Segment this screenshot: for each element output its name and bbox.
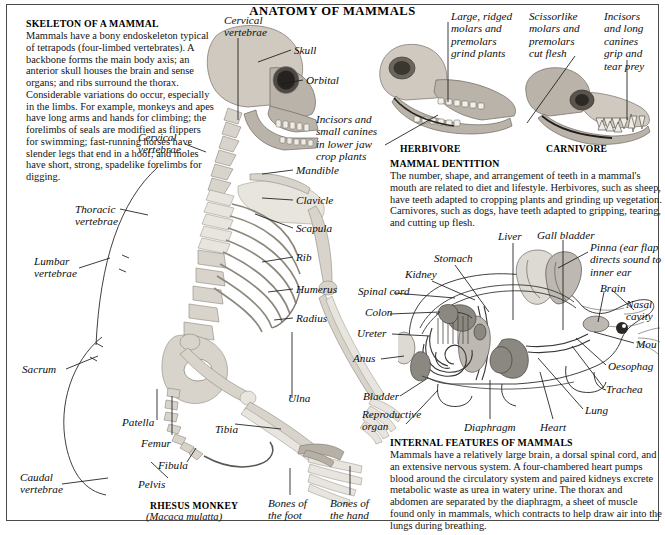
herbivore-caption: HERBIVORE — [400, 143, 461, 154]
internal-panel-body: Mammals have a relatively large brain, a… — [390, 449, 662, 531]
internal-panel-text: INTERNAL FEATURES OF MAMMALS Mammals hav… — [390, 437, 662, 531]
label-kidney: Kidney — [405, 268, 437, 280]
label-caudal-vertebrae: Caudal vertebrae — [20, 471, 63, 496]
vertebral-column-brace — [92, 165, 162, 350]
label-bladder: Bladder — [363, 390, 399, 402]
label-nasal-cavity: Nasal cavity — [626, 298, 653, 323]
dentition-panel-heading: MAMMAL DENTITION — [390, 158, 662, 169]
carnivore-caption: CARNIVORE — [546, 143, 607, 154]
label-gall-bladder: Gall bladder — [537, 229, 595, 241]
label-humerus: Humerus — [296, 283, 337, 295]
label-lung: Lung — [585, 404, 608, 416]
label-bones-of-the-foot: Bones of the foot — [268, 497, 307, 522]
label-radius: Radius — [296, 312, 327, 324]
label-mandible: Mandible — [296, 164, 339, 176]
label-tibia: Tibia — [215, 423, 238, 435]
label-orbital: Orbital — [306, 74, 339, 86]
label-cervical-vertebrae-mid: Cervical vertebrae — [138, 131, 181, 156]
label-fibula: Fibula — [158, 459, 188, 471]
label-reproductive-organ: Reproductive organ — [362, 408, 421, 433]
label-colon: Colon — [365, 306, 392, 318]
label-carnivore-incisors: Incisors and long canines grip and tear … — [604, 10, 644, 72]
specimen-common-name: RHESUS MONKEY — [150, 500, 238, 511]
label-ulna: Ulna — [288, 392, 310, 404]
label-bones-of-the-hand: Bones of the hand — [330, 497, 369, 522]
label-heart: Heart — [540, 421, 566, 433]
label-herbivore-molars: Large, ridged molars and premolars grind… — [451, 10, 512, 60]
label-rib: Rib — [296, 251, 312, 263]
label-anus: Anus — [353, 352, 375, 364]
label-mouth: Mou — [636, 338, 657, 350]
label-thoracic-vertebrae: Thoracic vertebrae — [75, 203, 118, 228]
anatomy-page: ANATOMY OF MAMMALS SKELETON OF A MAMMAL … — [0, 0, 665, 535]
label-clavicle: Clavicle — [296, 194, 333, 206]
label-oesophagus: Oesophag — [608, 360, 653, 372]
label-brain: Brain — [600, 282, 625, 294]
label-femur: Femur — [141, 437, 171, 449]
label-diaphragm: Diaphragm — [464, 421, 516, 433]
frame-border-left — [6, 4, 7, 521]
label-ureter: Ureter — [357, 327, 386, 339]
label-patella: Patella — [122, 416, 154, 428]
internal-panel-heading: INTERNAL FEATURES OF MAMMALS — [390, 437, 662, 448]
label-herbivore-incisors: Incisors and small canines in lower jaw … — [316, 113, 377, 163]
label-stomach: Stomach — [434, 252, 473, 264]
label-pinna: Pinna (ear flap directs sound to inner e… — [590, 241, 661, 278]
label-liver: Liver — [498, 230, 522, 242]
label-pelvis: Pelvis — [138, 478, 165, 490]
carnivore-skull-illustration — [520, 62, 652, 148]
label-trachea: Trachea — [606, 383, 643, 395]
label-scapula: Scapula — [296, 222, 332, 234]
label-skull: Skull — [294, 44, 316, 56]
specimen-scientific-name: (Macaca mulatta) — [146, 511, 222, 523]
label-cervical-vertebrae-top: Cervical vertebrae — [224, 14, 267, 39]
label-sacrum: Sacrum — [22, 363, 56, 375]
label-spinal-cord: Spinal cord — [358, 285, 409, 297]
dentition-panel-body: The number, shape, and arrangement of te… — [390, 170, 662, 229]
label-lumbar-vertebrae: Lumbar vertebrae — [34, 255, 77, 280]
label-carnivore-molars: Scissorlike molars and premolars cut fle… — [529, 10, 580, 60]
dentition-panel-text: MAMMAL DENTITION The number, shape, and … — [390, 158, 662, 229]
